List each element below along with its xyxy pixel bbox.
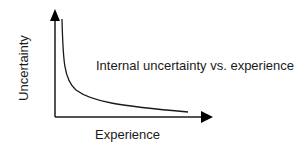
y-axis-arrowhead-icon <box>50 9 60 21</box>
y-axis-label: Uncertainty <box>16 35 31 101</box>
x-axis-arrowhead-icon <box>201 111 213 123</box>
uncertainty-experience-diagram: Uncertainty Experience Internal uncertai… <box>0 0 304 152</box>
x-axis-label: Experience <box>95 127 160 142</box>
diagram-title: Internal uncertainty vs. experience <box>96 58 294 73</box>
